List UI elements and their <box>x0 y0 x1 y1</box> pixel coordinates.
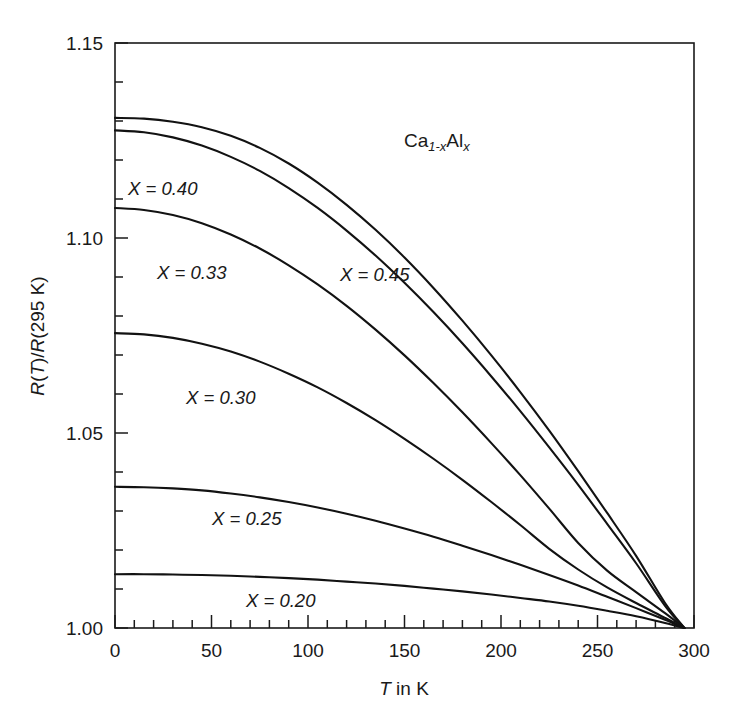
x-tick-label: 300 <box>678 640 710 661</box>
curve-0-45 <box>115 118 684 628</box>
x-axis-title: T in K <box>379 678 429 699</box>
y-tick-label: 1.15 <box>66 33 103 54</box>
curve-label-x-025: X = 0.25 <box>212 508 281 530</box>
curve-label-x-040: X = 0.40 <box>128 178 197 200</box>
y-tick-label: 1.00 <box>66 618 103 639</box>
curve-label-x-020: X = 0.20 <box>246 590 315 612</box>
sample-composition-label: Ca1-xAlx <box>404 130 470 154</box>
y-axis-title: R(T)/R(295 K) <box>27 276 48 395</box>
y-tick-label: 1.05 <box>66 423 103 444</box>
curve-label-x-030: X = 0.30 <box>186 387 255 409</box>
x-tick-label: 50 <box>201 640 222 661</box>
curve-label-x-033: X = 0.33 <box>157 262 226 284</box>
resistivity-ratio-chart: 1.001.051.101.15 050100150200250300 R(T)… <box>0 0 732 722</box>
curve-0-3 <box>115 333 684 628</box>
sample-sub-1minusx: 1-x <box>428 139 446 154</box>
curve-0-25 <box>115 487 684 628</box>
data-curves <box>115 118 684 628</box>
curve-0-4 <box>115 130 684 628</box>
x-tick-label: 100 <box>292 640 324 661</box>
curve-label-x-045: X = 0.45 <box>340 264 409 286</box>
sample-base-ca: Ca <box>404 130 428 151</box>
x-tick-label: 200 <box>485 640 517 661</box>
sample-base-al: Al <box>446 130 463 151</box>
y-axis-tick-labels: 1.001.051.101.15 <box>66 33 103 639</box>
y-tick-label: 1.10 <box>66 228 103 249</box>
x-axis-ticks <box>115 615 694 628</box>
x-tick-label: 250 <box>582 640 614 661</box>
x-axis-tick-labels: 050100150200250300 <box>110 640 710 661</box>
x-tick-label: 150 <box>389 640 421 661</box>
sample-sub-x: x <box>463 139 469 154</box>
x-tick-label: 0 <box>110 640 121 661</box>
figure-container: 1.001.051.101.15 050100150200250300 R(T)… <box>0 0 732 722</box>
